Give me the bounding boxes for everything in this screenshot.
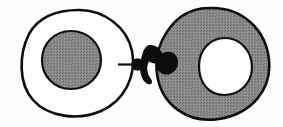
right-vacuole: [199, 38, 252, 95]
diagram-canvas: [0, 0, 283, 127]
figure-container: Two-cell conjugation diagram: [0, 0, 283, 127]
connector-dot: [131, 58, 143, 70]
left-nucleus: [42, 31, 101, 89]
left-cell-group: [22, 10, 133, 116]
